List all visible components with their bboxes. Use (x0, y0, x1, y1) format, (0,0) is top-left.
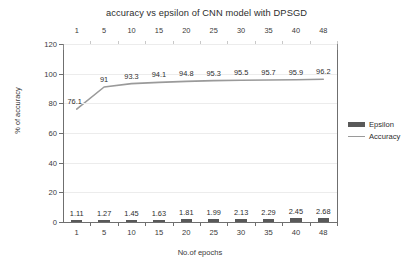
line-value-label: 95.7 (261, 68, 275, 77)
x-tick-label: 5 (102, 228, 106, 237)
y-axis-title: % of accuracy (13, 81, 22, 141)
x-axis-title: No.of epochs (63, 248, 337, 257)
top-axis-tick-mark (145, 41, 146, 44)
line-value-label: 96.2 (316, 67, 330, 76)
y-tick-label: 20 (49, 188, 57, 197)
gridline (63, 163, 337, 164)
x-tick-label: 10 (127, 228, 135, 237)
x-tick-mark (227, 222, 228, 226)
line-value-label: 95.3 (206, 69, 220, 78)
x-tick-mark (255, 222, 256, 226)
top-axis-tick-mark (118, 41, 119, 44)
line-value-label: 91 (100, 75, 108, 84)
y-tick-label: 40 (49, 158, 57, 167)
x-tick-label: 35 (264, 228, 272, 237)
top-axis-tick-mark (282, 41, 283, 44)
chart-legend: Epsilon Accuracy (348, 118, 400, 142)
y-tick-label: 0 (53, 218, 57, 227)
gridline (63, 44, 337, 45)
x-tick-label: 40 (292, 228, 300, 237)
legend-bar-swatch-icon (348, 122, 365, 127)
legend-line-swatch-icon (348, 136, 365, 137)
bar-value-label: 1.81 (179, 208, 193, 217)
top-axis-tick-mark (200, 41, 201, 44)
x-tick-mark (310, 222, 311, 226)
top-axis-tick-label: 48 (319, 26, 327, 35)
plot-area: 1.111.271.451.631.811.992.132.292.452.68… (63, 44, 337, 222)
legend-label-epsilon: Epsilon (369, 120, 394, 129)
top-axis-tick-label: 20 (182, 26, 190, 35)
top-axis-tick-mark (173, 41, 174, 44)
top-axis-tick-label: 30 (237, 26, 245, 35)
x-tick-mark (337, 222, 338, 226)
y-tick-mark (59, 163, 63, 164)
x-tick-label: 25 (209, 228, 217, 237)
legend-label-accuracy: Accuracy (369, 132, 400, 141)
x-tick-label: 20 (182, 228, 190, 237)
y-tick-mark (59, 103, 63, 104)
y-tick-label: 60 (49, 129, 57, 138)
line-value-label: 95.9 (289, 68, 303, 77)
bar-value-label: 2.68 (316, 207, 330, 216)
chart-container: accuracy vs epsilon of CNN model with DP… (0, 0, 413, 275)
legend-item-epsilon: Epsilon (348, 118, 400, 130)
top-axis-tick-label: 15 (155, 26, 163, 35)
bar-value-label: 1.99 (206, 208, 220, 217)
bar-value-label: 1.63 (152, 209, 166, 218)
bar-value-label: 1.27 (97, 209, 111, 218)
x-tick-mark (200, 222, 201, 226)
line-value-label: 95.5 (234, 68, 248, 77)
bar-value-label: 2.45 (289, 207, 303, 216)
x-tick-label: 30 (237, 228, 245, 237)
chart-title: accuracy vs epsilon of CNN model with DP… (0, 8, 413, 18)
top-axis-tick-mark (227, 41, 228, 44)
line-value-label: 94.8 (179, 69, 193, 78)
axis-left-spine (63, 44, 64, 223)
x-tick-label: 48 (319, 228, 327, 237)
top-axis-tick-label: 40 (292, 26, 300, 35)
line-value-label: 94.1 (152, 70, 166, 79)
bar-value-label: 1.45 (124, 209, 138, 218)
x-tick-label: 1 (75, 228, 79, 237)
top-axis-end-cap (337, 44, 338, 50)
gridline (63, 133, 337, 134)
line-value-label: 93.3 (124, 72, 138, 81)
y-tick-mark (59, 74, 63, 75)
top-axis-tick-label: 1 (75, 26, 79, 35)
bar-value-label: 2.29 (261, 208, 275, 217)
x-tick-label: 15 (155, 228, 163, 237)
top-axis-tick-mark (310, 41, 311, 44)
y-tick-label: 80 (49, 99, 57, 108)
top-axis-tick-mark (90, 41, 91, 44)
x-tick-mark (173, 222, 174, 226)
x-tick-mark (90, 222, 91, 226)
top-axis-end-cap (63, 44, 64, 50)
top-axis-tick-labels: 151015202530354048 (63, 26, 337, 38)
y-tick-mark (59, 133, 63, 134)
y-tick-label: 100 (44, 69, 57, 78)
gridline (63, 192, 337, 193)
top-axis-tick-label: 5 (102, 26, 106, 35)
y-tick-mark (59, 222, 63, 223)
top-axis-tick-label: 25 (210, 26, 218, 35)
x-tick-mark (282, 222, 283, 226)
bar-value-label: 1.11 (70, 209, 84, 218)
x-tick-mark (118, 222, 119, 226)
y-axis: 020406080100120 (0, 0, 57, 275)
y-tick-label: 120 (44, 40, 57, 49)
top-axis-tick-label: 35 (264, 26, 272, 35)
gridline (63, 103, 337, 104)
y-tick-mark (59, 192, 63, 193)
bar-value-label: 2.13 (234, 208, 248, 217)
axis-right-spine (337, 44, 338, 223)
legend-item-accuracy: Accuracy (348, 130, 400, 142)
line-value-label: 76.1 (67, 97, 81, 106)
top-axis-tick-label: 10 (127, 26, 135, 35)
x-tick-mark (145, 222, 146, 226)
top-axis-tick-mark (255, 41, 256, 44)
